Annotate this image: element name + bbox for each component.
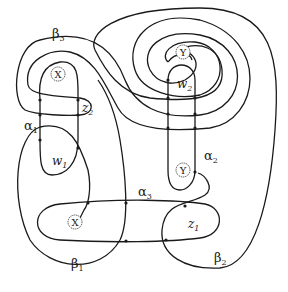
svg-text:Y: Y [179, 47, 187, 58]
alpha1-label: α1 [24, 118, 38, 135]
basepoint-x-upper: X [51, 67, 65, 81]
basepoint-y-upper: Y [176, 45, 190, 59]
alpha3-label: α3 [138, 184, 152, 201]
beta1-curve [18, 80, 126, 264]
basepoint-y-lower: Y [176, 163, 190, 177]
region-z1-label: z1 [187, 217, 199, 233]
svg-text:Y: Y [179, 165, 187, 176]
alpha2-label: α2 [204, 148, 218, 165]
region-z2-label: z2 [81, 101, 93, 117]
region-w1-label: w1 [52, 154, 67, 170]
beta3-label: β3 [52, 26, 65, 43]
beta1-label: β1 [71, 256, 84, 273]
heegaard-diagram: X X Y Y β3 α1 α2 α3 β1 β2 w1 w2 z1 z2 [0, 0, 288, 292]
svg-text:X: X [54, 69, 62, 80]
beta2-label: β2 [214, 250, 227, 267]
svg-text:X: X [71, 217, 79, 228]
basepoint-x-lower: X [68, 215, 82, 229]
region-w2-label: w2 [177, 77, 192, 93]
diagram-canvas: X X Y Y β3 α1 α2 α3 β1 β2 w1 w2 z1 z2 [0, 0, 288, 292]
